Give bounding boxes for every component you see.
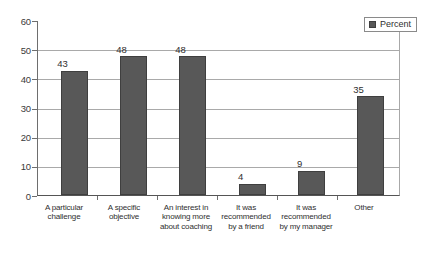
- plot-area: [37, 21, 400, 196]
- x-category-label-3: An interest in knowing more about coachi…: [152, 203, 220, 231]
- x-category-label-6-line-1: Other: [333, 203, 395, 212]
- x-category-label-1-line-2: challenge: [33, 212, 95, 221]
- x-tick-mark-3: [277, 196, 278, 200]
- bar-an-interest-in-knowing-more: [179, 56, 206, 195]
- gridline-20: [38, 138, 399, 139]
- legend-label-percent: Percent: [380, 20, 411, 29]
- y-tick-label-40: 40: [5, 75, 31, 85]
- y-tick-label-30: 30: [5, 104, 31, 114]
- bar-value-3: 48: [165, 45, 196, 55]
- y-tick-mark-0: [32, 196, 37, 197]
- x-category-label-1: A particular challenge: [33, 203, 95, 222]
- y-axis: 60 50 40 30 20 10 0: [0, 0, 31, 254]
- x-category-label-6: Other: [333, 203, 395, 212]
- bar-chart: 60 50 40 30 20 10 0 43 48 48 4 9 35 A p: [0, 0, 423, 254]
- x-category-label-3-line-1: An interest in: [152, 203, 220, 212]
- y-tick-label-10: 10: [5, 162, 31, 172]
- x-category-label-3-line-3: about coaching: [152, 222, 220, 231]
- x-tick-mark-2: [217, 196, 218, 200]
- bar-recommended-by-a-friend: [239, 184, 266, 196]
- bar-value-5: 9: [284, 159, 315, 169]
- x-category-label-3-line-2: knowing more: [152, 212, 220, 221]
- bar-value-2: 48: [106, 45, 137, 55]
- gridline-50: [38, 50, 399, 51]
- x-tick-mark-1: [157, 196, 158, 200]
- legend: Percent: [364, 17, 417, 32]
- gridline-30: [38, 109, 399, 110]
- gridline-40: [38, 79, 399, 80]
- bar-a-specific-objective: [120, 56, 147, 195]
- y-tick-label-0: 0: [5, 192, 31, 202]
- x-category-label-2-line-2: objective: [93, 212, 155, 221]
- bar-value-1: 43: [47, 59, 78, 69]
- x-category-label-5-line-2: recommended: [268, 212, 344, 221]
- bar-recommended-by-my-manager: [298, 171, 325, 196]
- y-tick-label-60: 60: [5, 17, 31, 27]
- x-category-label-5-line-3: by my manager: [268, 222, 344, 231]
- bar-other: [357, 96, 384, 195]
- x-tick-mark-0: [97, 196, 98, 200]
- x-category-label-2-line-1: A specific: [93, 203, 155, 212]
- bar-value-6: 35: [343, 85, 374, 95]
- x-category-label-2: A specific objective: [93, 203, 155, 222]
- legend-swatch-percent: [369, 21, 376, 28]
- bar-a-particular-challenge: [61, 71, 88, 196]
- y-tick-label-20: 20: [5, 133, 31, 143]
- x-category-label-1-line-1: A particular: [33, 203, 95, 212]
- gridline-10: [38, 167, 399, 168]
- bar-value-4: 4: [225, 172, 256, 182]
- x-tick-mark-4: [337, 196, 338, 200]
- y-tick-label-50: 50: [5, 46, 31, 56]
